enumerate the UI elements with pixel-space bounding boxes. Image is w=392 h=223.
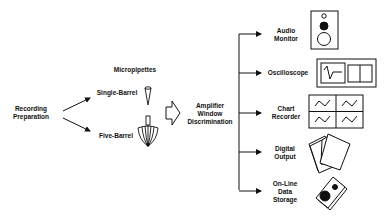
output-label-audio-monitor: Audio Monitor — [262, 27, 310, 43]
speaker-icon — [311, 11, 338, 49]
five-barrel-pipette-icon — [138, 116, 158, 146]
arrow-to-five-barrel — [63, 118, 90, 131]
hollow-arrow-icon — [166, 101, 180, 125]
output-label-digital-output: Digital Output — [262, 145, 308, 161]
single-barrel-pipette-icon — [145, 87, 151, 105]
disk-cartridge-icon — [316, 177, 347, 210]
oscilloscope-icon — [317, 59, 376, 87]
arrow-to-single-barrel — [63, 98, 90, 111]
output-bus — [239, 34, 261, 191]
micropipettes-title: Micropipettes — [100, 66, 170, 74]
chart-recorder-icon — [309, 95, 363, 128]
output-label-online-data-storage: On-Line Data Storage — [262, 180, 308, 204]
output-label-oscilloscope: Oscilloscope — [262, 69, 314, 77]
output-label-chart-recorder: Chart Recorder — [262, 105, 310, 121]
paper-sheets-icon — [309, 134, 350, 173]
amplifier-window-discrimination-label: Amplifier Window Discrimination — [180, 102, 240, 126]
single-barrel-label: Single-Barrel — [92, 89, 142, 97]
five-barrel-label: Five-Barrel — [94, 132, 138, 140]
recording-preparation-label: Recording Preparation — [0, 105, 62, 121]
